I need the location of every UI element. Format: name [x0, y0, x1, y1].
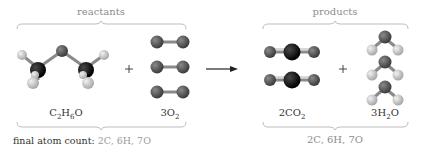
products-brace [263, 21, 408, 29]
products-bottom-brace [263, 122, 408, 130]
ethanol-molecule [17, 45, 109, 89]
water-molecules [367, 31, 404, 106]
o2-molecule-3 [151, 86, 190, 99]
reactants-bottom-brace [17, 122, 186, 130]
final-atom-count: final atom count: 2C, 6H, 7O [13, 135, 151, 146]
h2o-molecule-2 [367, 56, 404, 81]
final-atom-count-value: 2C, 6H, 7O [98, 135, 151, 146]
reactants-brace [17, 21, 186, 29]
co2-molecule-2 [264, 72, 320, 89]
reaction-diagram-graphics [0, 0, 428, 152]
ethanol-formula: C2H6O [36, 107, 96, 121]
final-atom-count-label: final atom count: [13, 135, 95, 146]
products-atom-count: 2C, 6H, 7O [295, 134, 375, 145]
reactants-label: reactants [71, 6, 131, 17]
oxygen-molecules [151, 36, 190, 99]
o2-molecule-2 [151, 61, 190, 74]
h2o-molecule-3 [367, 81, 404, 106]
co2-molecules [264, 44, 320, 89]
co2-molecule-1 [264, 44, 320, 61]
products-label: products [305, 6, 365, 17]
plus-sign-reactants [125, 65, 133, 73]
water-formula: 3H2O [360, 107, 410, 121]
plus-sign-products [339, 65, 347, 73]
h2o-molecule-1 [367, 31, 404, 56]
reaction-arrow-icon [206, 66, 238, 72]
co2-formula: 2CO2 [270, 107, 314, 121]
oxygen-formula: 3O2 [150, 107, 190, 121]
o2-molecule-1 [151, 36, 190, 49]
